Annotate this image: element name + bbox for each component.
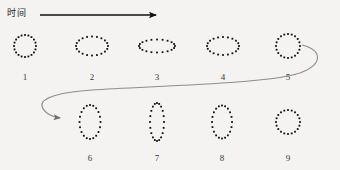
ellipse-dot <box>237 42 239 44</box>
ellipse-dot <box>280 131 282 133</box>
ellipse-dot <box>299 41 301 43</box>
dotted-ellipse-6 <box>79 104 102 140</box>
ellipse-dot <box>31 36 33 38</box>
ellipse-dot <box>227 37 229 39</box>
ellipse-dot <box>28 56 30 58</box>
ellipse-dot <box>104 40 106 42</box>
shape-label-7: 7 <box>155 153 160 163</box>
ellipse-dot <box>91 55 93 57</box>
ellipse-dot <box>79 116 81 118</box>
ellipse-dot <box>100 121 102 123</box>
ellipse-dot <box>277 38 279 40</box>
ellipse-dot <box>92 137 94 139</box>
ellipse-dot <box>35 42 37 44</box>
ellipse-dot <box>275 121 277 123</box>
dotted-ellipse-5 <box>275 33 301 59</box>
ellipse-dot <box>156 140 158 142</box>
ellipse-dot <box>149 121 151 123</box>
ellipse-dot <box>213 131 215 133</box>
ellipse-dot <box>276 117 278 119</box>
ellipse-dot <box>156 52 158 54</box>
ellipse-dot <box>35 45 37 47</box>
ellipse-dot <box>283 34 285 36</box>
shape-label-5: 5 <box>286 72 291 82</box>
time-axis-label: 时间 <box>7 6 26 19</box>
ellipse-dot <box>150 132 152 134</box>
ellipse-dot <box>160 136 162 138</box>
ellipse-dot <box>173 43 175 45</box>
ellipse-dot <box>18 54 20 56</box>
ellipse-dot <box>167 50 169 52</box>
ellipse-dot <box>276 41 278 43</box>
ellipse-dot <box>104 51 106 53</box>
ellipse-dot <box>89 104 91 106</box>
ellipse-dot <box>213 38 215 40</box>
ellipse-dot <box>213 111 215 113</box>
ellipse-dot <box>14 49 16 51</box>
ellipse-dot <box>156 102 158 104</box>
ellipse-dot <box>107 45 109 47</box>
ellipse-dot <box>212 116 214 118</box>
ellipse-dot <box>86 137 88 139</box>
ellipse-dot <box>287 33 289 35</box>
ellipse-dot <box>212 126 214 128</box>
ellipse-dot <box>280 35 282 37</box>
ellipse-dot <box>280 111 282 113</box>
ellipse-dot <box>89 138 91 140</box>
ellipse-dot <box>227 108 229 110</box>
ellipse-dot <box>299 125 301 127</box>
ellipse-dot <box>162 51 164 53</box>
ellipse-dot <box>33 52 35 54</box>
ellipse-dot <box>238 45 240 47</box>
ellipse-dot <box>224 137 226 139</box>
ellipse-dot <box>82 53 84 55</box>
ellipse-dot <box>291 34 293 36</box>
ellipse-dot <box>222 54 224 56</box>
ellipse-dot <box>174 45 176 47</box>
ellipse-dot <box>86 105 88 107</box>
ellipse-dot <box>237 48 239 50</box>
ellipse-dot <box>154 139 156 141</box>
ellipse-dot <box>151 51 153 53</box>
dotted-ellipse-4 <box>206 36 240 56</box>
ellipse-dot <box>98 111 100 113</box>
ellipse-dot <box>160 106 162 108</box>
ellipse-dot <box>209 40 211 42</box>
ellipse-dot <box>232 38 234 40</box>
dotted-ellipse-8 <box>211 105 233 140</box>
ellipse-dot <box>283 57 285 59</box>
ellipse-dot <box>294 55 296 57</box>
ellipse-dot <box>162 132 164 134</box>
ellipse-dot <box>235 40 237 42</box>
ellipse-dot <box>224 105 226 107</box>
ellipse-dot <box>99 126 101 128</box>
ellipse-dot <box>217 54 219 56</box>
ellipse-dot <box>291 110 293 112</box>
ellipse-dot <box>31 54 33 56</box>
ellipse-dot <box>227 54 229 56</box>
shape-label-1: 1 <box>23 72 28 82</box>
ellipse-dot <box>277 128 279 130</box>
shape-label-4: 4 <box>221 72 226 82</box>
ellipse-dot <box>287 133 289 135</box>
ellipse-dot <box>294 111 296 113</box>
shape-label-8: 8 <box>220 153 225 163</box>
ellipse-dot <box>13 45 15 47</box>
ellipse-dot <box>209 50 211 52</box>
ellipse-dot <box>215 134 217 136</box>
ellipse-dot <box>299 45 301 47</box>
ellipse-dot <box>276 49 278 51</box>
ellipse-dot <box>28 35 30 37</box>
ellipse-dot <box>81 111 83 113</box>
ellipse-dot <box>171 49 173 51</box>
ellipse-dot <box>149 127 151 129</box>
ellipse-dot <box>235 50 237 52</box>
ellipse-dot <box>152 106 154 108</box>
ellipse-dot <box>280 55 282 57</box>
ellipse-dot <box>79 126 81 128</box>
ellipse-dot <box>151 39 153 41</box>
ellipse-dot <box>283 110 285 112</box>
ellipse-dot <box>142 49 144 51</box>
shape-label-6: 6 <box>88 153 93 163</box>
ellipse-dot <box>229 111 231 113</box>
